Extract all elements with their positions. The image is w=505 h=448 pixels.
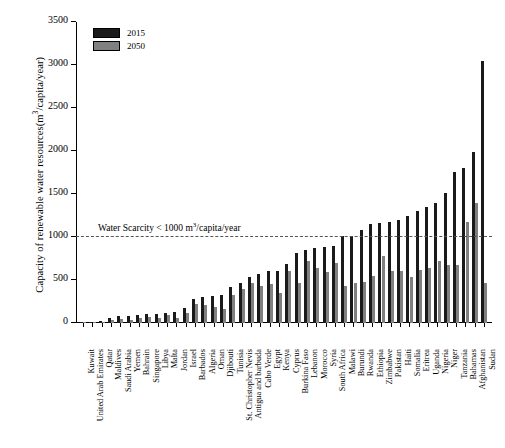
x-axis-label: Niger — [450, 330, 459, 349]
x-axis-tick — [176, 323, 177, 327]
x-axis-tick — [83, 323, 84, 327]
bar-group — [341, 22, 348, 323]
bar-group — [434, 22, 441, 323]
x-axis-label: Uganda — [432, 323, 441, 349]
bar-group — [229, 22, 236, 323]
x-axis-label: Jordan — [180, 327, 189, 349]
bar-2050 — [447, 265, 450, 323]
x-axis-label-text: Morocco — [320, 349, 329, 379]
bar-group — [117, 22, 124, 323]
x-axis-label: Kuwait — [87, 325, 96, 349]
bar-group — [285, 22, 292, 323]
legend-item-2050: 2050 — [93, 39, 145, 52]
x-axis-label: Ethiopia — [376, 321, 385, 349]
x-axis-label: Zimbabwe — [385, 314, 394, 349]
plot-area: 0500100015002000250030003500 KuwaitUnite… — [76, 22, 492, 323]
bar-group — [257, 22, 264, 323]
bar-2050 — [438, 261, 441, 323]
bar-group — [406, 22, 413, 323]
legend-swatch — [93, 41, 120, 51]
scarcity-text-pre: Water Scarcity < 1000 m — [98, 223, 193, 233]
x-axis-label-text: Lebanon — [310, 349, 319, 378]
bar-group — [145, 22, 152, 323]
legend-label: 2050 — [127, 41, 145, 51]
bar-group — [304, 22, 311, 323]
x-axis-label-text: Jordan — [180, 349, 189, 371]
x-axis-label-text: Egypt — [273, 349, 282, 369]
bar-group — [136, 22, 143, 323]
x-axis-label: Somalia — [413, 322, 422, 349]
x-axis-label: United Arab Emirates — [96, 277, 105, 349]
y-axis-tick: 2500 — [71, 107, 76, 108]
x-axis-label: Eritrea — [422, 326, 431, 349]
x-axis-label-text: Saudi Arabia — [124, 349, 133, 392]
y-axis-line — [76, 22, 77, 323]
x-axis-tick — [223, 323, 224, 327]
bar-2050 — [428, 268, 431, 323]
y-axis-tick-label: 1000 — [48, 229, 68, 240]
bar-group — [313, 22, 320, 323]
x-axis-label-text: Algeria — [208, 349, 217, 374]
bar-group — [192, 22, 199, 323]
y-axis-tick-label: 3500 — [48, 14, 68, 25]
x-axis-label-text: Tanzania — [460, 349, 469, 379]
bar-group — [444, 22, 451, 323]
x-axis-label: Israel — [189, 331, 198, 349]
bar-group — [108, 22, 115, 323]
x-axis-label: Syria — [329, 331, 338, 349]
x-axis-label-text: Bahamas — [469, 349, 478, 379]
bar-group — [183, 22, 190, 323]
x-axis-label-text: Somalia — [413, 349, 422, 376]
x-axis-label: Malta — [170, 330, 179, 349]
x-axis-label: Cabo Verde — [264, 310, 273, 349]
bar-2050 — [186, 313, 189, 323]
bar-group — [369, 22, 376, 323]
x-axis-label-text: Libya — [161, 349, 170, 368]
y-axis-title-post: /capita/year) — [34, 57, 45, 111]
x-axis-label-text: Nigeria — [441, 349, 450, 374]
y-axis-tick: 1500 — [71, 193, 76, 194]
x-axis-label: Saudi Arabia — [124, 306, 133, 349]
x-axis-tick — [279, 323, 280, 327]
scarcity-threshold-label: Water Scarcity < 1000 m3/capita/year — [98, 221, 241, 233]
x-axis-label: Sudan — [488, 328, 497, 349]
x-axis-label: Morocco — [320, 319, 329, 349]
x-axis-label: Afghanistan — [478, 308, 487, 349]
y-axis-tick: 500 — [71, 279, 76, 280]
bar-group — [462, 22, 469, 323]
x-axis-label: Singapore — [152, 315, 161, 349]
bar-group — [220, 22, 227, 323]
bar-group — [211, 22, 218, 323]
bar-group — [332, 22, 339, 323]
bar-group — [155, 22, 162, 323]
x-axis-label-text: Zimbabwe — [385, 349, 394, 384]
chart-legend: 20152050 — [93, 26, 145, 52]
bar-2050 — [288, 271, 291, 323]
x-axis-tick — [195, 323, 196, 327]
x-axis-label: Djibouti — [226, 321, 235, 349]
y-axis-tick-label: 500 — [53, 272, 68, 283]
legend-item-2015: 2015 — [93, 26, 145, 39]
x-axis-label-text: Haiti — [404, 349, 413, 366]
y-axis-tick-label: 1500 — [48, 186, 68, 197]
bar-2050 — [363, 282, 366, 323]
bar-group — [295, 22, 302, 323]
x-axis-label-text: Djibouti — [226, 349, 235, 377]
bar-2050 — [279, 293, 282, 323]
y-axis-tick: 3500 — [71, 21, 76, 22]
x-axis-label-text: Kuwait — [87, 349, 96, 373]
y-axis-tick: 3000 — [71, 64, 76, 65]
x-axis-label: Barbados — [198, 318, 207, 349]
x-axis-label-text: Yemen — [133, 349, 142, 372]
bar-group — [201, 22, 208, 323]
bar-group — [323, 22, 330, 323]
bar-group — [164, 22, 171, 323]
x-axis-label: Pakistan — [394, 321, 403, 349]
x-axis-label: Egypt — [273, 329, 282, 349]
x-axis-label-text: Tunisia — [236, 349, 245, 374]
bar-group — [481, 22, 488, 323]
x-axis-tick — [167, 323, 168, 327]
bar-group — [173, 22, 180, 323]
x-axis-label: Qatar — [105, 331, 114, 349]
bar-2050 — [176, 318, 179, 323]
